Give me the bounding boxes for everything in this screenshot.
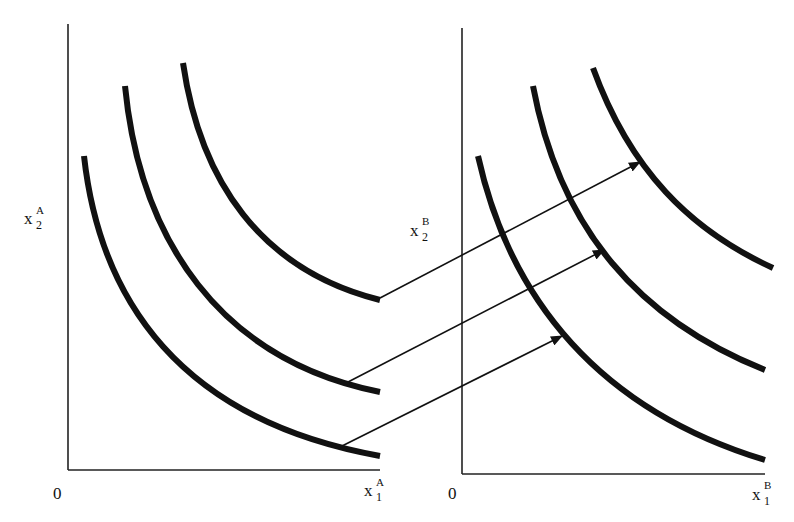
label-superscript: A: [376, 477, 384, 488]
arrow-top: [380, 162, 640, 298]
label-superscript: B: [764, 480, 771, 491]
diagram-canvas: [0, 0, 794, 522]
panel-b-y-axis-label: x B 2: [410, 222, 419, 239]
label-subscript: 1: [376, 491, 382, 503]
arrow-middle: [348, 250, 604, 382]
label-superscript: A: [36, 205, 44, 216]
label-base: x: [24, 209, 33, 228]
panel-a-x-axis-label: x A 1: [364, 482, 373, 499]
panel-b-curves: [478, 68, 773, 460]
panel-b-x-axis-label: x B 1: [752, 486, 761, 503]
panel-b-curve-3: [593, 68, 773, 268]
label-base: x: [364, 481, 373, 500]
panel-b-origin-label: 0: [448, 485, 457, 502]
panel-b-curve-2: [533, 86, 765, 370]
label-subscript: 2: [36, 219, 42, 231]
panel-a-curves: [84, 63, 380, 456]
label-superscript: B: [422, 216, 429, 227]
label-subscript: 2: [422, 231, 428, 243]
panel-a-axes: [68, 24, 380, 470]
label-base: x: [752, 485, 761, 504]
panel-a-origin-label: 0: [53, 485, 62, 502]
panel-a-curve-3: [183, 63, 380, 300]
label-subscript: 1: [764, 495, 770, 507]
panel-b-curve-1: [478, 156, 765, 460]
label-base: x: [410, 221, 419, 240]
panel-a-y-axis-label: x A 2: [24, 210, 33, 227]
